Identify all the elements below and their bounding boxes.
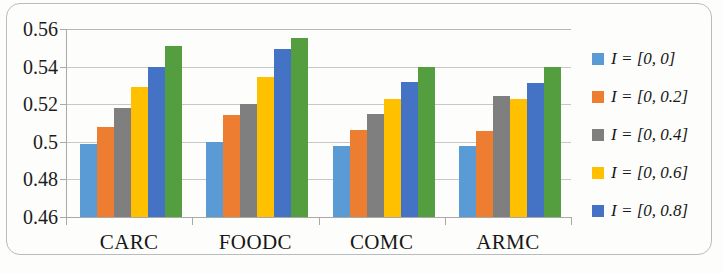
y-axis-tick-label: 0.5 xyxy=(6,132,58,152)
bar xyxy=(401,82,418,217)
y-axis-tickmark xyxy=(60,104,67,105)
legend-swatch-icon xyxy=(592,53,604,65)
bar xyxy=(367,114,384,217)
y-axis-tick-label: 0.48 xyxy=(6,169,58,189)
bar xyxy=(291,38,308,217)
legend-item[interactable]: I = [0, 0.4] xyxy=(592,116,720,154)
x-axis-tickmark xyxy=(445,217,446,225)
legend-item[interactable]: I = [0, 0.8] xyxy=(592,192,720,230)
x-axis-category-label: CARC xyxy=(66,230,192,255)
y-axis-labels: 0.560.540.520.50.480.46 xyxy=(0,0,58,274)
bar xyxy=(223,115,240,217)
legend-item[interactable]: I = [0, 0.2] xyxy=(592,78,720,116)
bar-group xyxy=(206,29,308,217)
bar-group xyxy=(459,29,561,217)
y-axis-line xyxy=(66,29,67,225)
y-axis-tickmark xyxy=(60,142,67,143)
bar xyxy=(350,130,367,217)
x-axis-tickmark xyxy=(66,217,67,225)
bar xyxy=(274,49,291,217)
x-axis-tickmark xyxy=(319,217,320,225)
x-axis-category-label: COMC xyxy=(319,230,445,255)
bar xyxy=(80,144,97,217)
legend-item-label: I = [0, 0.6] xyxy=(611,163,688,183)
bar xyxy=(493,96,510,217)
y-axis-tickmark xyxy=(60,179,67,180)
bar xyxy=(240,104,257,217)
y-axis-tickmark xyxy=(60,29,67,30)
y-axis-tick-label: 0.46 xyxy=(6,207,58,227)
bar xyxy=(165,46,182,217)
bar xyxy=(384,99,401,217)
bar xyxy=(459,146,476,217)
bar-group xyxy=(80,29,182,217)
bar xyxy=(97,127,114,217)
bar xyxy=(148,67,165,217)
legend-item-label: I = [0, 0.4] xyxy=(611,125,688,145)
bar-group xyxy=(333,29,435,217)
plot-area xyxy=(66,29,571,217)
bar xyxy=(544,67,561,217)
x-axis-category-label: FOODC xyxy=(192,230,318,255)
legend-swatch-icon xyxy=(592,205,604,217)
legend-swatch-icon xyxy=(592,129,604,141)
legend-item[interactable]: I = [0, 0.6] xyxy=(592,154,720,192)
chart-legend: I = [0, 0]I = [0, 0.2]I = [0, 0.4]I = [0… xyxy=(592,40,720,230)
y-axis-tick-label: 0.54 xyxy=(6,57,58,77)
legend-item-label: I = [0, 0.2] xyxy=(611,87,688,107)
x-axis-category-label: ARMC xyxy=(445,230,571,255)
bar xyxy=(333,146,350,217)
y-axis-tick-label: 0.56 xyxy=(6,19,58,39)
bar xyxy=(476,131,493,217)
legend-swatch-icon xyxy=(592,167,604,179)
legend-item-label: I = [0, 0.8] xyxy=(611,201,688,221)
legend-swatch-icon xyxy=(592,91,604,103)
bar xyxy=(527,83,544,217)
legend-item-label: I = [0, 0] xyxy=(611,49,675,69)
bar xyxy=(257,77,274,217)
bar xyxy=(206,142,223,217)
y-axis-tickmark xyxy=(60,67,67,68)
chart-figure: 0.560.540.520.50.480.46 I = [0, 0]I = [0… xyxy=(0,0,723,274)
legend-item[interactable]: I = [0, 0] xyxy=(592,40,720,78)
x-axis-tickmark xyxy=(571,217,572,225)
y-axis-tick-label: 0.52 xyxy=(6,94,58,114)
x-axis-tickmark xyxy=(192,217,193,225)
bar xyxy=(510,99,527,217)
bar xyxy=(114,108,131,217)
bar xyxy=(131,87,148,217)
bar xyxy=(418,67,435,217)
